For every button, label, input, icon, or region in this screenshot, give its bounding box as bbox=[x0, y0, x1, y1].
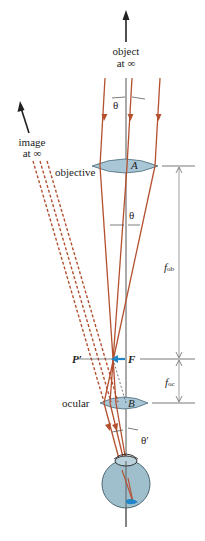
object-label: object bbox=[106, 46, 146, 57]
objective-label: objective bbox=[55, 167, 95, 178]
object-arrow-head-icon bbox=[123, 10, 130, 20]
image-at-infinity-label: at ∞ bbox=[12, 148, 52, 159]
objective-lens bbox=[92, 159, 158, 173]
lens-a-label: A bbox=[131, 160, 138, 171]
f-ob-label: fob bbox=[164, 262, 174, 275]
object-at-infinity-label: at ∞ bbox=[106, 58, 146, 69]
image-direction-arrow bbox=[21, 108, 29, 133]
incoming-rays bbox=[100, 78, 160, 502]
telescope-diagram bbox=[0, 0, 205, 541]
image-arrow-head-icon bbox=[18, 101, 25, 112]
ocular-label: ocular bbox=[62, 398, 89, 409]
f-point-label: F bbox=[128, 354, 135, 365]
p-prime-label: P′ bbox=[72, 354, 82, 365]
theta-prime-label: θ′ bbox=[141, 435, 149, 446]
f-oc-label: foc bbox=[165, 377, 175, 390]
theta-mid-label: θ bbox=[129, 210, 134, 221]
lens-b-label: B bbox=[128, 398, 135, 409]
ocular-lens bbox=[100, 397, 148, 409]
theta-top-label: θ bbox=[113, 100, 118, 111]
virtual-rays bbox=[33, 161, 118, 402]
